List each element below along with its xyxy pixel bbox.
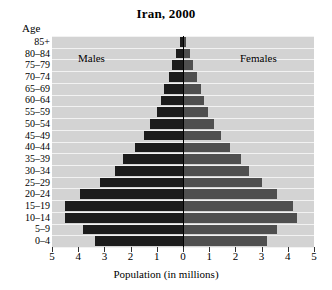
bar-male (65, 213, 183, 223)
y-axis-label: 80–84 (8, 49, 50, 59)
y-axis-label: 70–74 (8, 72, 50, 82)
bar-female (183, 107, 208, 117)
x-axis-tick-label: 2 (121, 250, 141, 262)
x-axis-tick-label: 5 (304, 250, 324, 262)
y-axis-label: 60–64 (8, 95, 50, 105)
y-axis-label: 35–39 (8, 154, 50, 164)
y-axis-label: 75–79 (8, 60, 50, 70)
y-axis-label: 45–49 (8, 131, 50, 141)
bar-female (183, 166, 249, 176)
bar-male (95, 236, 183, 246)
bar-male (123, 154, 183, 164)
x-axis-tick-label: 3 (94, 250, 114, 262)
bar-female (183, 225, 277, 235)
x-axis-tick-label: 1 (199, 250, 219, 262)
bar-female (183, 154, 241, 164)
bar-female (183, 72, 197, 82)
bar-female (183, 201, 293, 211)
bar-female (183, 96, 204, 106)
y-axis-label: 30–34 (8, 166, 50, 176)
bar-male (169, 72, 183, 82)
bar-female (183, 189, 277, 199)
bar-female (183, 236, 267, 246)
plot-area (52, 36, 314, 247)
bar-male (65, 201, 183, 211)
x-axis-tick-label: 4 (278, 250, 298, 262)
x-axis-tick-label: 2 (225, 250, 245, 262)
y-axis-label: 20–24 (8, 189, 50, 199)
bar-female (183, 213, 297, 223)
y-axis-label: 50–54 (8, 119, 50, 129)
x-axis-tick-label: 5 (42, 250, 62, 262)
bar-male (176, 49, 183, 59)
y-axis-label: 5–9 (8, 224, 50, 234)
bar-male (161, 96, 183, 106)
y-axis-label: 85+ (8, 37, 50, 47)
y-axis-label: 40–44 (8, 142, 50, 152)
bar-male (100, 178, 183, 188)
bar-male (135, 143, 183, 153)
x-axis-tick-label: 0 (173, 250, 193, 262)
legend-label-females: Females (240, 52, 277, 64)
legend-label-males: Males (78, 52, 105, 64)
x-axis-tick-label: 4 (68, 250, 88, 262)
center-axis-line (183, 36, 184, 247)
bar-female (183, 178, 262, 188)
bar-female (183, 84, 201, 94)
chart-title: Iran, 2000 (0, 6, 332, 22)
bar-female (183, 119, 214, 129)
x-axis-tick-label: 3 (252, 250, 272, 262)
x-axis-tick-label: 1 (147, 250, 167, 262)
bar-male (150, 119, 183, 129)
y-axis-label: 55–59 (8, 107, 50, 117)
bar-male (172, 60, 183, 70)
y-axis-label: 25–29 (8, 178, 50, 188)
bar-male (157, 107, 183, 117)
y-axis-label: 10–14 (8, 213, 50, 223)
y-axis-label: 0–4 (8, 236, 50, 246)
bar-female (183, 131, 221, 141)
y-axis-label: 65–69 (8, 84, 50, 94)
bar-male (164, 84, 183, 94)
population-pyramid-chart: Iran, 2000 Age 85+80–8475–7970–7465–6960… (0, 0, 332, 290)
bar-female (183, 143, 230, 153)
y-axis-label: 15–19 (8, 201, 50, 211)
bar-male (144, 131, 183, 141)
bar-male (80, 189, 183, 199)
bar-male (83, 225, 183, 235)
bar-male (115, 166, 183, 176)
y-axis-title: Age (22, 22, 52, 34)
bar-female (183, 60, 193, 70)
x-axis-title: Population (in millions) (0, 268, 332, 280)
